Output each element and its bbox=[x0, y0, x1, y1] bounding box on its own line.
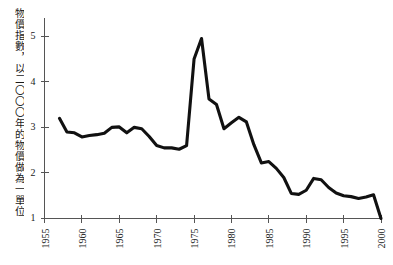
y-tick-label: 4 bbox=[31, 76, 36, 87]
data-series-group bbox=[59, 39, 381, 219]
x-tick-label: 1990 bbox=[301, 229, 312, 249]
y-tick-group: 12345 bbox=[31, 30, 49, 223]
data-series-line bbox=[59, 39, 381, 219]
x-tick-label: 1995 bbox=[339, 229, 350, 249]
y-tick-label: 1 bbox=[31, 212, 36, 223]
price-index-chart: 物價指數，以二〇〇〇年的物價做為一單位 12345 19551960196519… bbox=[0, 0, 393, 265]
x-axis: 1955196019651970197519801985199019952000 bbox=[40, 215, 388, 249]
x-tick-label: 1970 bbox=[152, 229, 163, 249]
x-tick-label: 1975 bbox=[189, 229, 200, 249]
y-tick-label: 5 bbox=[31, 30, 36, 41]
x-tick-label: 1985 bbox=[264, 229, 275, 249]
y-tick-label: 2 bbox=[31, 167, 36, 178]
x-tick-label: 1980 bbox=[226, 229, 237, 249]
x-tick-label: 1960 bbox=[77, 229, 88, 249]
x-tick-label: 2000 bbox=[376, 229, 387, 249]
y-tick-label: 3 bbox=[31, 121, 36, 132]
x-tick-group: 1955196019651970197519801985199019952000 bbox=[40, 215, 388, 249]
chart-plot-area: 12345 1955196019651970197519801985199019… bbox=[0, 0, 393, 265]
x-tick-label: 1965 bbox=[114, 229, 125, 249]
y-axis: 12345 bbox=[31, 18, 49, 223]
x-tick-label: 1955 bbox=[40, 229, 51, 249]
